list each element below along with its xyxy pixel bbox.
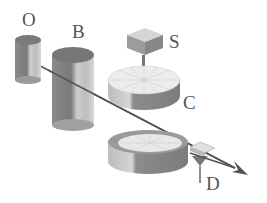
wheel-C bbox=[108, 66, 180, 110]
cylinder-B bbox=[52, 47, 94, 131]
label-D: D bbox=[206, 174, 220, 193]
label-O: O bbox=[22, 10, 36, 29]
label-S: S bbox=[169, 32, 180, 51]
wheel-lower bbox=[108, 130, 188, 174]
cylinder-O bbox=[15, 35, 41, 84]
label-B: B bbox=[72, 22, 85, 41]
apparatus-diagram bbox=[0, 0, 267, 203]
label-C: C bbox=[183, 93, 196, 112]
